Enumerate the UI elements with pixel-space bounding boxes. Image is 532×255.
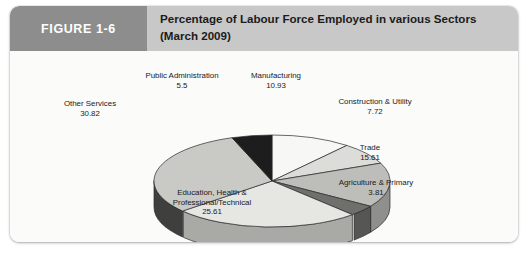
slice-label-text: Public Administration: [145, 71, 218, 80]
slice-label-text: Construction & Utility: [338, 97, 411, 106]
figure-number-label: FIGURE 1-6: [41, 22, 116, 36]
pie-chart-plot-area: Public Administration 5.5 Manufacturing …: [10, 51, 518, 242]
figure-title-line-1: Percentage of Labour Force Employed in v…: [160, 11, 508, 28]
figure-title-line-2: (March 2009): [160, 28, 508, 45]
slice-label-text: Other Services: [64, 99, 116, 108]
slice-label-text-line-1: Education, Health &: [177, 188, 247, 197]
slice-label-value: 15.61: [340, 153, 400, 163]
slice-label-trade: Trade 15.61: [340, 143, 400, 162]
slice-label-value: 3.81: [310, 188, 442, 198]
slice-label-value: 25.61: [132, 207, 292, 217]
slice-label-value: 7.72: [310, 107, 440, 117]
slice-label-text-line-2: Professional/Technical: [132, 198, 292, 208]
slice-label-education-health-professional: Education, Health & Professional/Technic…: [132, 188, 292, 217]
figure-number-tab: FIGURE 1-6: [10, 6, 147, 51]
slice-label-public-administration: Public Administration 5.5: [122, 71, 242, 90]
slice-label-value: 30.82: [30, 109, 150, 119]
figure-card: FIGURE 1-6 Percentage of Labour Force Em…: [10, 6, 518, 242]
slice-label-other-services: Other Services 30.82: [30, 99, 150, 118]
slice-label-construction-utility: Construction & Utility 7.72: [310, 97, 440, 116]
slice-label-agriculture-primary: Agriculture & Primary 3.81: [310, 178, 442, 197]
figure-title-block: Percentage of Labour Force Employed in v…: [147, 6, 518, 51]
slice-label-text: Manufacturing: [251, 71, 301, 80]
slice-label-value: 10.93: [231, 81, 321, 91]
slice-label-value: 5.5: [122, 81, 242, 91]
slice-label-text: Agriculture & Primary: [339, 178, 414, 187]
slice-label-text: Trade: [360, 143, 380, 152]
slice-label-manufacturing: Manufacturing 10.93: [231, 71, 321, 90]
figure-header: FIGURE 1-6 Percentage of Labour Force Em…: [10, 6, 518, 51]
